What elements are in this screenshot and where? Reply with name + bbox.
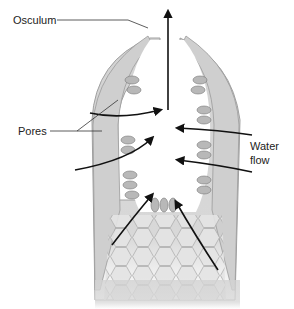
osculum-label: Osculum xyxy=(13,14,56,27)
water-flow-label-line1: Water xyxy=(250,140,279,153)
sponge-body xyxy=(92,36,240,309)
water-flow-label-line2: flow xyxy=(250,154,270,167)
pores-label: Pores xyxy=(18,125,47,138)
